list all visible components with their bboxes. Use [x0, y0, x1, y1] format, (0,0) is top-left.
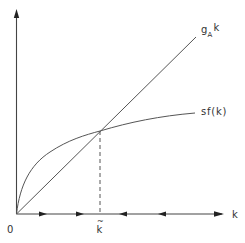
- x-axis-label: k: [232, 209, 238, 220]
- arrow-left-icon: [119, 212, 127, 217]
- arrow-right-icon: [214, 211, 224, 216]
- sfk-label: sf(k): [201, 106, 227, 117]
- origin-label: 0: [7, 224, 13, 235]
- arrow-left-icon: [158, 212, 166, 217]
- sfk-curve: [17, 113, 196, 214]
- solow-diagram: 0 k ~ k g A k sf(k): [0, 0, 245, 243]
- arrow-right-icon: [39, 212, 47, 217]
- gak-line: [17, 37, 197, 214]
- arrow-right-icon: [76, 212, 84, 217]
- y-axis-arrowhead-icon: [14, 9, 19, 18]
- y-axis: [14, 9, 19, 214]
- gak-label: g A k: [201, 22, 220, 39]
- svg-text:A: A: [208, 31, 213, 39]
- svg-text:k: k: [214, 22, 220, 33]
- svg-text:g: g: [201, 24, 207, 35]
- x-axis: [17, 211, 225, 216]
- steady-state-label: k: [97, 224, 103, 235]
